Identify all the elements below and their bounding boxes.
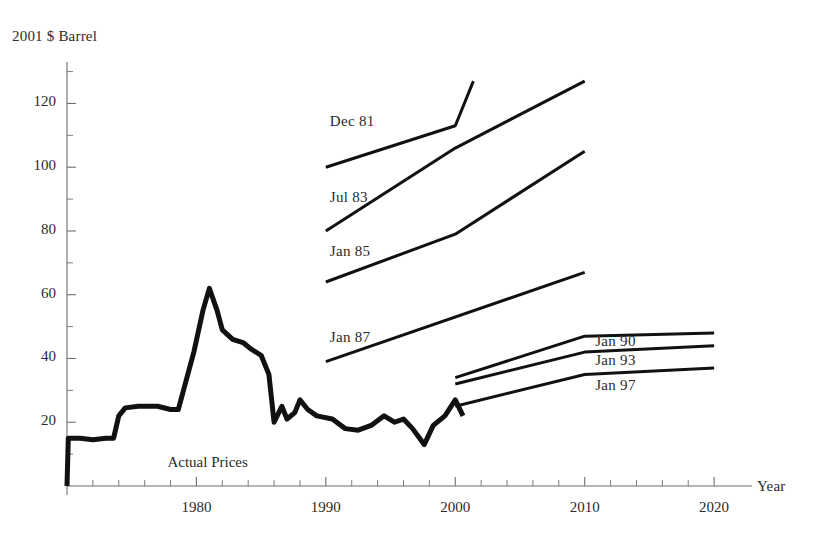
x-tick-label: 2010	[545, 499, 625, 516]
y-tick-label: 60	[8, 285, 56, 302]
actual-prices-label: Actual Prices	[167, 454, 247, 471]
series-label-dec-81: Dec 81	[330, 113, 375, 130]
chart-canvas	[0, 0, 825, 550]
y-tick-label: 100	[8, 157, 56, 174]
series-line-jan-85	[326, 151, 585, 282]
series-label-jan-97: Jan 97	[595, 377, 636, 394]
y-tick-label: 80	[8, 221, 56, 238]
x-tick-label: 1980	[156, 499, 236, 516]
series-label-jan-93: Jan 93	[595, 352, 636, 369]
series-line-actual-prices	[67, 288, 463, 486]
axes-group	[67, 62, 752, 495]
y-axis-title: 2001 $ Barrel	[12, 28, 97, 45]
series-label-jan-87: Jan 87	[330, 329, 371, 346]
x-tick-label: 2000	[415, 499, 495, 516]
series-label-jan-85: Jan 85	[330, 243, 371, 260]
series-group	[67, 81, 714, 486]
series-label-jul-83: Jul 83	[330, 189, 368, 206]
oil-price-forecast-chart: 2001 $ Barrel Year 20406080100120 198019…	[0, 0, 825, 550]
x-tick-label: 2020	[674, 499, 754, 516]
y-tick-label: 120	[8, 93, 56, 110]
series-label-jan-90: Jan 90	[595, 333, 636, 350]
x-tick-label: 1990	[286, 499, 366, 516]
y-tick-label: 20	[8, 412, 56, 429]
y-tick-label: 40	[8, 348, 56, 365]
x-axis-title: Year	[757, 478, 785, 495]
